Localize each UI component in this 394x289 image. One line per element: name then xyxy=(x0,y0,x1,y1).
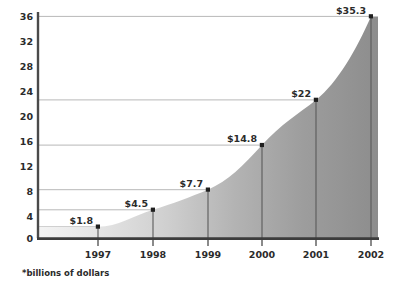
value-label-2002: $35.3 xyxy=(336,5,366,16)
data-point-1998[interactable] xyxy=(151,208,155,212)
y-tick-label-8: 8 xyxy=(26,186,33,197)
x-tick-label-1997: 1997 xyxy=(85,249,111,260)
value-label-1997: $1.8 xyxy=(70,215,94,226)
chart-container: 36 32 28 24 20 16 12 8 4 0 1997 1998 199… xyxy=(0,0,394,289)
area-chart: 36 32 28 24 20 16 12 8 4 0 1997 1998 199… xyxy=(0,0,394,289)
y-tick-label-24: 24 xyxy=(20,86,34,97)
y-tick-label-28: 28 xyxy=(20,61,34,72)
chart-footnote: *billions of dollars xyxy=(22,268,109,278)
y-tick-label-32: 32 xyxy=(20,36,33,47)
value-label-2001: $22 xyxy=(291,88,311,99)
value-label-1999: $7.7 xyxy=(180,178,203,189)
data-point-2002[interactable] xyxy=(369,14,373,18)
data-point-2000[interactable] xyxy=(260,143,264,147)
x-tick-label-1999: 1999 xyxy=(195,249,221,260)
y-axis-tick-labels: 36 32 28 24 20 16 12 8 4 0 xyxy=(20,11,34,244)
data-point-1999[interactable] xyxy=(206,188,210,192)
data-point-2001[interactable] xyxy=(314,98,318,102)
value-label-2000: $14.8 xyxy=(227,133,257,144)
data-point-1997[interactable] xyxy=(96,225,100,229)
y-tick-label-36: 36 xyxy=(20,11,34,22)
x-tick-label-2000: 2000 xyxy=(249,249,276,260)
x-tick-label-2001: 2001 xyxy=(303,249,329,260)
y-tick-label-16: 16 xyxy=(20,136,34,147)
x-axis-tick-labels: 1997 1998 1999 2000 2001 2002 xyxy=(85,249,384,260)
y-tick-label-4: 4 xyxy=(26,211,33,222)
x-tick-label-1998: 1998 xyxy=(140,249,167,260)
x-tick-label-2002: 2002 xyxy=(358,249,384,260)
value-label-1998: $4.5 xyxy=(125,198,148,209)
y-tick-label-12: 12 xyxy=(20,161,33,172)
y-tick-label-0: 0 xyxy=(26,233,33,244)
y-tick-label-20: 20 xyxy=(20,111,34,122)
